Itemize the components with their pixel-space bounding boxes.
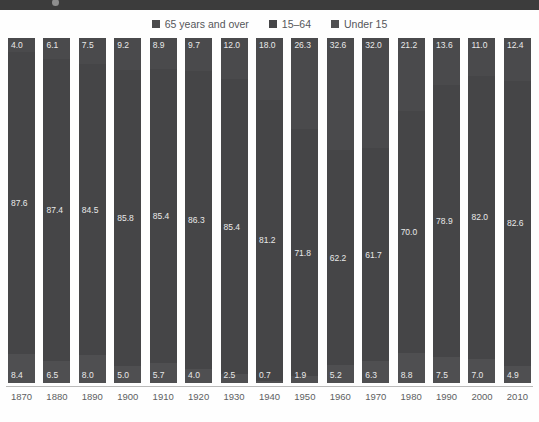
bar-column[interactable]: 12.482.64.9 — [504, 38, 531, 383]
bar-segment[interactable]: 8.4 — [8, 354, 35, 383]
bar-segment-value: 8.9 — [153, 41, 165, 50]
bar-segment[interactable]: 82.6 — [504, 81, 531, 366]
bar-column[interactable]: 32.061.76.3 — [362, 38, 389, 383]
bar-segment[interactable]: 21.2 — [398, 38, 425, 111]
bar-segment[interactable]: 11.0 — [468, 38, 495, 76]
chart-legend: 65 years and over15–64Under 15 — [0, 14, 539, 34]
bar-segment-value: 85.4 — [224, 223, 241, 232]
bar-segment[interactable]: 6.3 — [362, 361, 389, 383]
bar-segment-value: 32.6 — [330, 41, 347, 50]
bar-segment-value: 8.0 — [82, 371, 94, 380]
bar-segment[interactable]: 12.0 — [221, 38, 248, 79]
bar-segment[interactable]: 70.0 — [398, 111, 425, 353]
bar-column[interactable]: 32.662.25.2 — [327, 38, 354, 383]
bar-segment-value: 4.9 — [507, 371, 519, 380]
bar-column[interactable]: 12.085.42.5 — [221, 38, 248, 383]
bar-column[interactable]: 7.584.58.0 — [79, 38, 106, 383]
bar-segment[interactable]: 13.6 — [433, 38, 460, 85]
bar-segment[interactable]: 26.3 — [291, 38, 318, 129]
bar-segment-value: 7.5 — [436, 371, 448, 380]
bar-segment[interactable]: 32.0 — [362, 38, 389, 148]
bar-column[interactable]: 9.285.85.0 — [114, 38, 141, 383]
bar-column[interactable]: 18.081.20.7 — [256, 38, 283, 383]
x-axis-tick-label: 1890 — [79, 392, 106, 402]
bar-segment[interactable]: 6.5 — [43, 361, 70, 383]
bar-segment[interactable]: 85.4 — [221, 79, 248, 374]
legend-item[interactable]: 15–64 — [269, 19, 311, 30]
bar-column[interactable]: 26.371.81.9 — [291, 38, 318, 383]
legend-item[interactable]: Under 15 — [331, 19, 387, 30]
bar-segment[interactable]: 71.8 — [291, 129, 318, 377]
legend-item-label: 15–64 — [282, 19, 311, 30]
legend-swatch-icon — [331, 20, 339, 28]
legend-item[interactable]: 65 years and over — [152, 19, 249, 30]
bar-segment-value: 82.0 — [471, 213, 488, 222]
bar-segment[interactable]: 8.9 — [150, 38, 177, 69]
bar-segment[interactable]: 7.0 — [468, 359, 495, 383]
bar-column[interactable]: 13.678.97.5 — [433, 38, 460, 383]
bar-segment[interactable]: 4.0 — [185, 369, 212, 383]
bar-segment[interactable]: 62.2 — [327, 150, 354, 365]
bar-segment-value: 0.7 — [259, 371, 271, 380]
x-axis-tick-label: 1990 — [433, 392, 460, 402]
window-titlebar — [0, 0, 539, 10]
x-axis-tick-label: 1870 — [8, 392, 35, 402]
bar-segment-value: 85.4 — [153, 212, 170, 221]
bar-segment[interactable]: 61.7 — [362, 148, 389, 361]
bar-segment[interactable]: 12.4 — [504, 38, 531, 81]
bar-segment[interactable]: 87.4 — [43, 59, 70, 361]
bar-segment-value: 32.0 — [365, 41, 382, 50]
bar-segment[interactable]: 5.7 — [150, 363, 177, 383]
bar-segment[interactable]: 4.9 — [504, 366, 531, 383]
bar-segment[interactable]: 81.2 — [256, 100, 283, 380]
bar-column[interactable]: 8.985.45.7 — [150, 38, 177, 383]
bar-segment[interactable]: 5.0 — [114, 366, 141, 383]
bar-segment[interactable]: 78.9 — [433, 85, 460, 357]
bar-segment-value: 9.7 — [188, 41, 200, 50]
bar-segment-value: 2.5 — [224, 371, 236, 380]
bar-segment[interactable]: 9.2 — [114, 38, 141, 70]
bar-segment[interactable]: 5.2 — [327, 365, 354, 383]
x-axis-tick-label: 1880 — [43, 392, 70, 402]
x-axis-tick-labels: 1870188018901900191019201930194019501960… — [8, 390, 531, 404]
stacked-bars: 4.087.68.46.187.46.57.584.58.09.285.85.0… — [8, 38, 531, 383]
bar-segment[interactable]: 8.8 — [398, 353, 425, 383]
bar-segment[interactable]: 82.0 — [468, 76, 495, 359]
bar-segment-value: 6.1 — [46, 41, 58, 50]
bar-segment[interactable]: 2.5 — [221, 374, 248, 383]
bar-column[interactable]: 6.187.46.5 — [43, 38, 70, 383]
bar-column[interactable]: 11.082.07.0 — [468, 38, 495, 383]
chart-plot-area: 4.087.68.46.187.46.57.584.58.09.285.85.0… — [8, 38, 531, 383]
x-axis-tick-label: 1920 — [185, 392, 212, 402]
bar-column[interactable]: 4.087.68.4 — [8, 38, 35, 383]
bar-column[interactable]: 21.270.08.8 — [398, 38, 425, 383]
bar-segment[interactable]: 8.0 — [79, 355, 106, 383]
bar-segment[interactable]: 7.5 — [79, 38, 106, 64]
bar-segment[interactable]: 6.1 — [43, 38, 70, 59]
bar-column[interactable]: 9.786.34.0 — [185, 38, 212, 383]
bar-segment[interactable]: 18.0 — [256, 38, 283, 100]
bar-segment[interactable]: 7.5 — [433, 357, 460, 383]
bar-segment[interactable]: 32.6 — [327, 38, 354, 150]
bar-segment[interactable]: 1.9 — [291, 376, 318, 383]
bar-segment-value: 12.0 — [224, 41, 241, 50]
chart-footnote — [6, 413, 533, 422]
x-axis-tick-label: 1940 — [256, 392, 283, 402]
bar-segment-value: 26.3 — [294, 41, 311, 50]
bar-segment-value: 61.7 — [365, 251, 382, 260]
bar-segment-value: 81.2 — [259, 236, 276, 245]
x-axis-tick-label: 1970 — [362, 392, 389, 402]
bar-segment-value: 86.3 — [188, 216, 205, 225]
bar-segment-value: 9.2 — [117, 41, 129, 50]
bar-segment-value: 7.5 — [82, 41, 94, 50]
bar-segment[interactable]: 0.7 — [256, 381, 283, 383]
bar-segment[interactable]: 4.0 — [8, 38, 35, 52]
x-axis-line — [6, 386, 533, 387]
bar-segment[interactable]: 85.8 — [114, 70, 141, 366]
bar-segment[interactable]: 85.4 — [150, 69, 177, 364]
bar-segment-value: 4.0 — [11, 41, 23, 50]
bar-segment[interactable]: 84.5 — [79, 64, 106, 356]
bar-segment[interactable]: 86.3 — [185, 71, 212, 369]
bar-segment[interactable]: 87.6 — [8, 52, 35, 354]
bar-segment[interactable]: 9.7 — [185, 38, 212, 71]
